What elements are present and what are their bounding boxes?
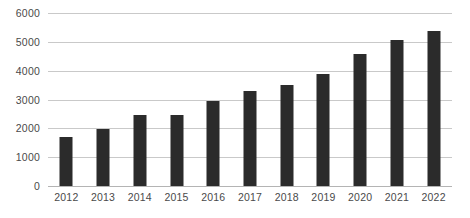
x-axis-tick-label: 2013: [85, 191, 122, 203]
y-axis-tick-label: 0: [0, 180, 40, 192]
bar-chart: 0100020003000400050006000 20122013201420…: [0, 0, 470, 218]
bar-slot: [195, 13, 232, 186]
bar[interactable]: [60, 137, 73, 186]
x-axis-tick-label: 2017: [232, 191, 269, 203]
x-axis-tick-label: 2012: [48, 191, 85, 203]
x-axis-tick-label: 2014: [121, 191, 158, 203]
bar-slot: [305, 13, 342, 186]
bar[interactable]: [427, 31, 440, 186]
bar-slot: [48, 13, 85, 186]
x-axis: 2012201320142015201620172018201920202021…: [48, 191, 452, 207]
bar-slot: [415, 13, 452, 186]
bar[interactable]: [243, 91, 256, 186]
bar[interactable]: [354, 54, 367, 186]
x-axis-tick-label: 2020: [342, 191, 379, 203]
y-axis-tick-label: 3000: [0, 94, 40, 106]
y-axis-tick-label: 1000: [0, 151, 40, 163]
x-axis-tick-label: 2018: [268, 191, 305, 203]
bar[interactable]: [170, 115, 183, 186]
bar[interactable]: [97, 129, 110, 186]
y-axis-tick-label: 4000: [0, 65, 40, 77]
bar-slot: [268, 13, 305, 186]
bar[interactable]: [390, 40, 403, 186]
x-axis-tick-label: 2021: [379, 191, 416, 203]
bar[interactable]: [133, 115, 146, 186]
bar-slot: [232, 13, 269, 186]
y-axis-tick-label: 6000: [0, 7, 40, 19]
x-axis-tick-label: 2019: [305, 191, 342, 203]
bar-slot: [85, 13, 122, 186]
y-axis-tick-label: 5000: [0, 36, 40, 48]
x-axis-tick-label: 2022: [415, 191, 452, 203]
bars: [48, 13, 452, 186]
bar[interactable]: [207, 101, 220, 186]
bar[interactable]: [317, 74, 330, 186]
bar-slot: [158, 13, 195, 186]
x-axis-tick-label: 2016: [195, 191, 232, 203]
gridline: [48, 186, 452, 187]
y-axis-tick-label: 2000: [0, 122, 40, 134]
plot-area: [48, 13, 452, 186]
x-axis-tick-label: 2015: [158, 191, 195, 203]
bar-slot: [342, 13, 379, 186]
bar[interactable]: [280, 85, 293, 186]
bar-slot: [379, 13, 416, 186]
bar-slot: [121, 13, 158, 186]
